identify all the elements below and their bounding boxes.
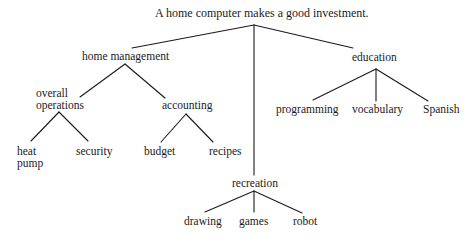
node-recreation: recreation [232,177,278,189]
node-label-line: accounting [162,99,212,111]
node-label-line: games [239,215,268,227]
node-label-line: robot [293,215,317,227]
node-label-line: vocabulary [352,103,403,115]
node-recipes: recipes [209,145,242,157]
node-drawing: drawing [184,215,222,227]
node-security: security [76,145,112,157]
node-vocabulary: vocabulary [352,103,403,115]
node-label-line: Spanish [423,103,459,115]
node-label-line: operations [36,99,84,111]
edge-accounting-to-budget [161,114,186,142]
tree-diagram: A home computer makes a good investment.… [0,0,472,235]
edge-home-management-to-overall-operations [80,64,125,97]
node-accounting: accounting [162,99,212,111]
node-budget: budget [144,145,175,157]
node-label-line: home management [82,50,169,62]
node-label-line: drawing [184,215,222,227]
edge-education-to-spanish [376,69,428,101]
node-label-line: education [352,51,397,63]
node-label-line: budget [144,145,175,157]
edge-education-to-programming [313,69,376,100]
node-robot: robot [293,215,317,227]
edge-accounting-to-recipes [186,114,213,142]
node-home-management: home management [82,50,169,62]
node-games: games [239,215,268,227]
node-overall-operations: overalloperations [36,87,84,111]
node-label-line: security [76,145,112,157]
edge-overall-operations-to-security [59,112,88,141]
node-programming: programming [276,103,339,115]
node-label-line: programming [276,103,339,115]
node-label-line: pump [17,157,43,169]
node-label-line: heat [17,145,43,157]
node-label-line: recipes [209,145,242,157]
node-education: education [352,51,397,63]
node-label-line: overall [36,87,84,99]
edge-root-to-education [254,25,353,48]
edge-overall-operations-to-heat-pump [31,112,59,141]
node-label-line: recreation [232,177,278,189]
root-node-thesis: A home computer makes a good investment. [155,7,369,19]
node-heat-pump: heatpump [17,145,43,169]
tree-edges [0,0,472,235]
edge-home-management-to-accounting [125,64,165,98]
edge-recreation-to-drawing [205,191,254,212]
edge-root-to-home-management [132,25,254,48]
node-spanish: Spanish [423,103,459,115]
edge-recreation-to-robot [254,191,302,213]
